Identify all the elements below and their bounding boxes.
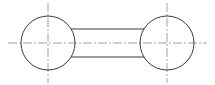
dumbbell-link-drawing: [0, 0, 215, 85]
